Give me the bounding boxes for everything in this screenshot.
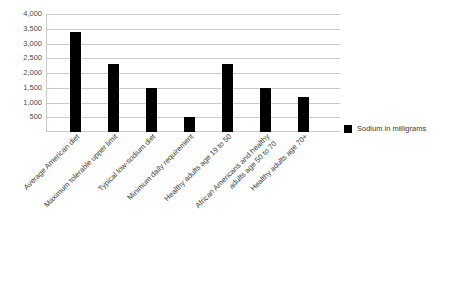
legend-item-label: Sodium in milligrams <box>357 124 426 133</box>
y-axis-tick-label: 1,000 <box>23 99 42 107</box>
x-axis-tick-label-line1: Minimum daily requirement <box>125 132 195 202</box>
sodium-bar-chart: 4,000 3,500 3,000 2,500 2,000 1,500 1,00… <box>0 0 463 288</box>
y-axis-tick-label: 3,500 <box>23 25 42 33</box>
gridline-2000 <box>46 73 340 74</box>
x-axis-tick-label-line1: Maximum tolerable upper limit <box>42 132 119 209</box>
x-axis-tick-label: Maximum tolerable upper limit <box>42 132 119 209</box>
y-axis-tick-label: 4,000 <box>23 10 42 18</box>
x-axis-tick-label: Minimum daily requirement <box>125 132 195 202</box>
bar-african-americans-50-70 <box>260 88 271 132</box>
gridline-1500 <box>46 88 340 89</box>
gridline-3000 <box>46 44 340 45</box>
chart-legend: Sodium in milligrams <box>344 124 426 133</box>
bar-healthy-adults-19-50 <box>222 64 233 132</box>
bar-healthy-adults-70-plus <box>298 97 309 132</box>
x-axis-tick-labels: Average American diet Maximum tolerable … <box>0 132 463 242</box>
y-axis-tick-label: 2,500 <box>23 54 42 62</box>
gridline-4000 <box>46 14 340 15</box>
bar-minimum-daily-requirement <box>184 117 195 132</box>
y-axis-tick-labels: 4,000 3,500 3,000 2,500 2,000 1,500 1,00… <box>0 14 42 132</box>
y-axis-tick-label: 1,500 <box>23 84 42 92</box>
y-axis-tick-label: 500 <box>29 113 42 121</box>
bar-typical-low-sodium-diet <box>146 88 157 132</box>
bar-average-american-diet <box>70 32 81 132</box>
legend-swatch-icon <box>344 125 352 133</box>
bar-maximum-tolerable-upper-limit <box>108 64 119 132</box>
x-axis-tick-label-line1: African Americans and healthy <box>193 132 271 210</box>
y-axis-tick-label: 2,000 <box>23 69 42 77</box>
plot-area <box>46 14 340 132</box>
gridline-3500 <box>46 29 340 30</box>
gridline-2500 <box>46 58 340 59</box>
gridline-1000 <box>46 103 340 104</box>
y-axis-tick-label: 3,000 <box>23 40 42 48</box>
